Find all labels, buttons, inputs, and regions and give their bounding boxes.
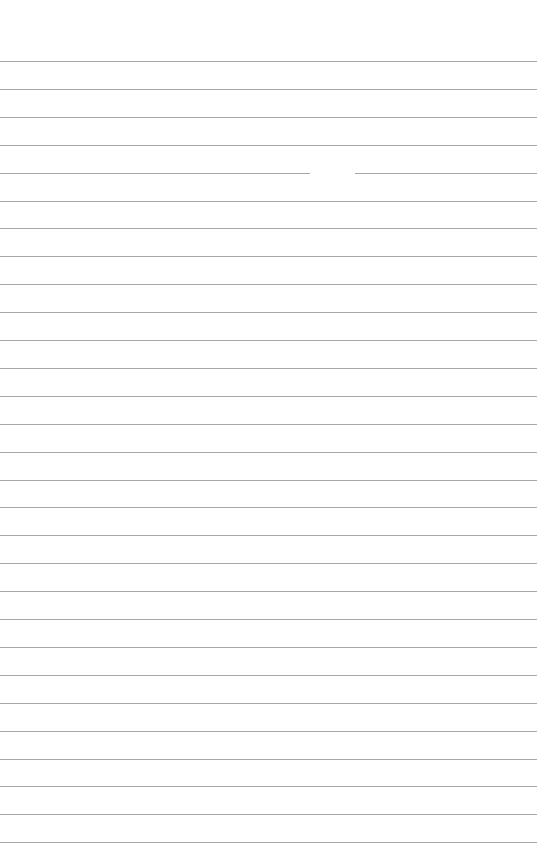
ruled-line bbox=[0, 201, 537, 202]
ruled-line bbox=[0, 647, 537, 648]
ruled-line bbox=[0, 396, 537, 397]
ruled-line bbox=[0, 228, 537, 229]
ruled-line bbox=[0, 117, 537, 118]
ruled-line bbox=[0, 145, 537, 146]
ruled-line bbox=[0, 480, 537, 481]
ruled-line bbox=[0, 340, 537, 341]
ruled-line bbox=[0, 675, 537, 676]
ruled-line bbox=[0, 814, 537, 815]
ruled-line bbox=[0, 452, 537, 453]
ruled-line bbox=[0, 61, 537, 62]
ruled-line bbox=[0, 842, 537, 843]
ruled-line bbox=[0, 563, 537, 564]
ruled-line bbox=[0, 786, 537, 787]
ruled-line bbox=[0, 89, 537, 90]
ruled-line bbox=[0, 312, 537, 313]
ruled-line bbox=[0, 256, 537, 257]
ruled-line bbox=[0, 591, 537, 592]
ruled-line bbox=[0, 731, 537, 732]
lined-paper-sheet bbox=[0, 0, 539, 866]
ruled-line bbox=[0, 703, 537, 704]
ruled-line bbox=[0, 759, 537, 760]
ruled-line bbox=[0, 507, 537, 508]
ruled-line bbox=[0, 284, 537, 285]
ruled-line bbox=[0, 619, 537, 620]
ruled-line bbox=[0, 535, 537, 536]
ruled-line bbox=[0, 424, 537, 425]
ruled-line bbox=[0, 368, 537, 369]
rule-gap bbox=[310, 172, 355, 175]
ruled-line bbox=[0, 173, 537, 174]
